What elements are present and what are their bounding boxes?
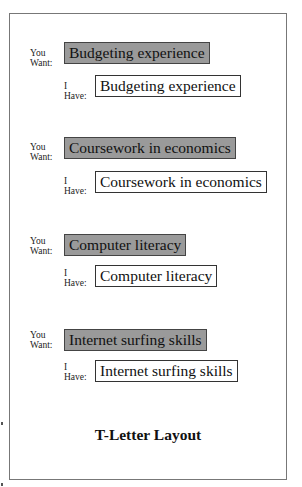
figure-caption: T-Letter Layout — [10, 426, 286, 444]
you-want-label: You Want: — [30, 330, 52, 350]
t-letter-figure: You Want: Budgeting experience I Have: B… — [9, 13, 287, 480]
i-have-label: I Have: — [64, 176, 87, 196]
you-want-label: You Want: — [30, 236, 52, 256]
you-want-label: You Want: — [30, 142, 52, 162]
have-box: Budgeting experience — [95, 75, 241, 97]
i-have-label: I Have: — [64, 81, 87, 101]
want-box: Computer literacy — [64, 234, 186, 256]
edge-mark — [1, 483, 3, 486]
want-box: Internet surfing skills — [64, 329, 207, 351]
you-want-label: You Want: — [30, 48, 52, 68]
want-box: Coursework in economics — [64, 137, 236, 159]
have-box: Coursework in economics — [95, 171, 267, 193]
i-have-label: I Have: — [64, 268, 87, 288]
have-box: Internet surfing skills — [95, 360, 238, 382]
have-box: Computer literacy — [95, 265, 217, 287]
want-box: Budgeting experience — [64, 42, 210, 64]
edge-mark — [1, 422, 3, 425]
i-have-label: I Have: — [64, 362, 87, 382]
